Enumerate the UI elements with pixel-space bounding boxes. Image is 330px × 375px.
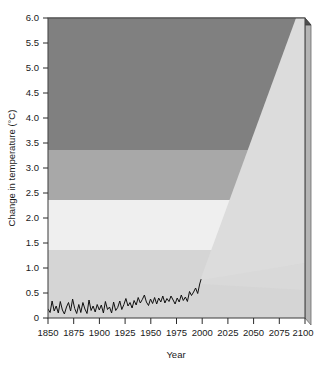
- x-tick-label-4: 1950: [140, 327, 161, 338]
- y-tick-label-6: 3.0: [26, 162, 39, 173]
- y-tick-5: 2.5: [26, 187, 48, 198]
- x-tick-1: 1875: [63, 318, 84, 338]
- chart-canvas: 0 0.5 1.0 1.5 2.0 2.5 3.0 3.5 4.0 4.5 5.…: [0, 0, 330, 375]
- y-tick-label-8: 4.0: [26, 112, 39, 123]
- y-tick-10: 5.0: [26, 62, 48, 73]
- y-tick-label-2: 1.0: [26, 262, 39, 273]
- y-tick-label-3: 1.5: [26, 237, 39, 248]
- x-axis-title: Year: [166, 349, 185, 360]
- y-tick-label-12: 6.0: [26, 12, 39, 23]
- x-tick-label-6: 2000: [192, 327, 213, 338]
- y-tick-label-9: 4.5: [26, 87, 39, 98]
- y-axis-title: Change in temperature (°C): [6, 110, 17, 227]
- x-tick-2: 1900: [89, 318, 110, 338]
- climate-projection-figure: 0 0.5 1.0 1.5 2.0 2.5 3.0 3.5 4.0 4.5 5.…: [0, 0, 330, 375]
- x-tick-label-9: 2075: [269, 327, 290, 338]
- y-tick-label-10: 5.0: [26, 62, 39, 73]
- x-tick-label-0: 1850: [37, 327, 58, 338]
- frame-bevel-right: [305, 18, 311, 325]
- x-tick-9: 2075: [269, 318, 290, 338]
- x-tick-label-8: 2050: [243, 327, 264, 338]
- x-tick-4: 1950: [140, 318, 161, 338]
- y-tick-label-4: 2.0: [26, 212, 39, 223]
- x-tick-label-10: 2100: [292, 327, 313, 338]
- x-axis: 1850 1875 1900 1925 1950 1975 2000 2025 …: [37, 318, 313, 338]
- y-tick-label-11: 5.5: [26, 37, 39, 48]
- x-tick-0: 1850: [37, 318, 58, 338]
- x-tick-label-5: 1975: [166, 327, 187, 338]
- x-tick-label-3: 1925: [115, 327, 136, 338]
- y-tick-12: 6.0: [26, 12, 48, 23]
- plot-area: [48, 18, 305, 318]
- x-tick-7: 2025: [217, 318, 238, 338]
- y-tick-9: 4.5: [26, 87, 48, 98]
- y-tick-8: 4.0: [26, 112, 48, 123]
- y-tick-6: 3.0: [26, 162, 48, 173]
- y-tick-label-1: 0.5: [26, 287, 39, 298]
- y-tick-3: 1.5: [26, 237, 48, 248]
- x-tick-label-7: 2025: [217, 327, 238, 338]
- x-tick-8: 2050: [243, 318, 264, 338]
- x-tick-3: 1925: [115, 318, 136, 338]
- x-tick-label-2: 1900: [89, 327, 110, 338]
- y-tick-11: 5.5: [26, 37, 48, 48]
- x-tick-label-1: 1875: [63, 327, 84, 338]
- y-tick-label-7: 3.5: [26, 137, 39, 148]
- y-axis: 0 0.5 1.0 1.5 2.0 2.5 3.0 3.5 4.0 4.5 5.…: [26, 12, 48, 323]
- y-tick-2: 1.0: [26, 262, 48, 273]
- y-tick-label-0: 0: [34, 312, 39, 323]
- y-tick-4: 2.0: [26, 212, 48, 223]
- y-tick-0: 0: [34, 312, 48, 323]
- y-tick-1: 0.5: [26, 287, 48, 298]
- x-tick-6: 2000: [192, 318, 213, 338]
- y-tick-label-5: 2.5: [26, 187, 39, 198]
- y-tick-7: 3.5: [26, 137, 48, 148]
- x-tick-5: 1975: [166, 318, 187, 338]
